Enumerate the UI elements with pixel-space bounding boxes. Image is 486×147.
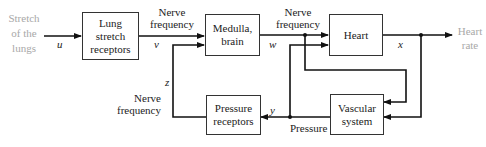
output-label: Heart rate	[455, 24, 485, 52]
signal-w-label-line-1: Nerve	[276, 6, 320, 18]
block-heart: Heart	[329, 14, 383, 56]
output-line-1: Heart	[455, 24, 485, 38]
output-line-2: rate	[455, 38, 485, 52]
block-lung-line-3: receptors	[90, 43, 130, 56]
signal-z-label-line-2: frequency	[117, 104, 161, 116]
signal-w-label-line-2: frequency	[276, 18, 320, 30]
block-medulla-brain: Medulla, brain	[205, 14, 260, 56]
block-pressure-line-1: Pressure	[213, 102, 253, 115]
block-pressure-line-2: receptors	[213, 115, 253, 128]
block-lung-line-2: stretch	[90, 30, 130, 43]
block-vascular-line-2: system	[338, 115, 376, 128]
block-heart-line-1: Heart	[344, 29, 368, 42]
signal-z-label: Nerve frequency	[117, 92, 161, 116]
block-medulla-line-1: Medulla,	[213, 22, 252, 35]
block-vascular-system: Vascular system	[330, 94, 384, 135]
block-diagram: Stretch of the lungs u Lung stretch rece…	[0, 0, 486, 147]
signal-v-label: Nerve frequency	[150, 6, 194, 30]
signal-y: y	[270, 104, 275, 116]
signal-v-label-line-2: frequency	[150, 18, 194, 30]
input-line-2: of the	[3, 26, 45, 41]
signal-z-label-line-1: Nerve	[117, 92, 161, 104]
block-medulla-line-2: brain	[213, 35, 252, 48]
block-vascular-line-1: Vascular	[338, 102, 376, 115]
signal-v: v	[154, 38, 159, 50]
input-label: Stretch of the lungs	[3, 11, 45, 56]
input-line-3: lungs	[3, 41, 45, 56]
block-pressure-receptors: Pressure receptors	[206, 95, 261, 135]
block-lung-stretch-receptors: Lung stretch receptors	[82, 12, 139, 60]
signal-z: z	[165, 76, 169, 88]
input-line-1: Stretch	[3, 11, 45, 26]
signal-w: w	[269, 38, 276, 50]
signal-u: u	[57, 38, 63, 50]
signal-x: x	[398, 38, 403, 50]
signal-y-label: Pressure	[290, 122, 327, 134]
signal-v-label-line-1: Nerve	[150, 6, 194, 18]
signal-w-label: Nerve frequency	[276, 6, 320, 30]
block-lung-line-1: Lung	[90, 17, 130, 30]
